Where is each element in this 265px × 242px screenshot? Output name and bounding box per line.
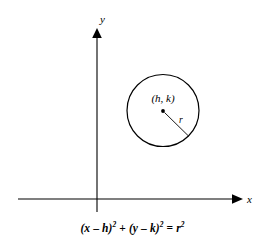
equation-exponent-3: 2 xyxy=(181,220,185,229)
equation-minus-2: – xyxy=(138,222,150,234)
circle-equation: (x – h)2 + (y – k)2 = r2 xyxy=(0,220,265,234)
radius-segment xyxy=(165,113,189,137)
equation-equals-operator: = xyxy=(164,222,177,234)
x-axis-label: x xyxy=(246,193,252,205)
radius-label: r xyxy=(179,115,183,125)
diagram-canvas: y x (h, k) r xyxy=(0,0,265,242)
circle-center-label: (h, k) xyxy=(151,92,175,105)
y-axis-arrowhead-icon xyxy=(92,28,102,38)
equation-minus-1: – xyxy=(90,222,102,234)
equation-plus-operator: + xyxy=(116,222,129,234)
y-axis-label: y xyxy=(99,13,105,25)
circle-center-point xyxy=(161,109,165,113)
circle-diagram-figure: y x (h, k) r (x – h)2 + (y – k)2 = r2 xyxy=(0,0,265,242)
x-axis-arrowhead-icon xyxy=(232,194,243,204)
